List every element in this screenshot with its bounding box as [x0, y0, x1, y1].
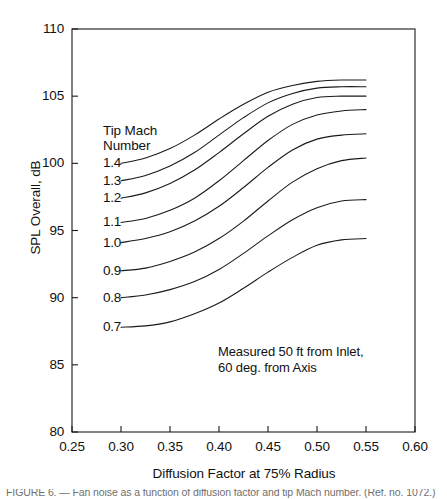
series-label-mach-0.8: 0.8: [103, 290, 137, 305]
x-tick-label: 0.35: [147, 439, 193, 454]
curve-mach-1.4: [121, 80, 366, 163]
y-tick-label: 105: [30, 88, 64, 103]
curve-mach-1.2: [121, 96, 366, 198]
series-label-mach-0.9: 0.9: [103, 263, 137, 278]
x-tick-label: 0.50: [294, 439, 340, 454]
legend-title-line-2: Number: [103, 139, 157, 154]
measurement-annotation: Measured 50 ft from Inlet, 60 deg. from …: [218, 344, 364, 375]
figure-caption: FIGURE 6. — Fan noise as a function of d…: [6, 489, 435, 498]
curve-mach-0.7: [121, 239, 366, 328]
y-tick-label: 110: [30, 21, 64, 36]
annotation-line-1: Measured 50 ft from Inlet,: [218, 344, 364, 360]
figure-caption-strip: FIGURE 6. — Fan noise as a function of d…: [0, 489, 447, 499]
y-tick-label: 85: [30, 357, 64, 372]
figure-container: 11010510095908580 0.250.300.350.400.450.…: [0, 0, 447, 499]
legend-title-line-1: Tip Mach: [103, 124, 157, 139]
y-tick-label: 80: [30, 424, 64, 439]
series-label-mach-1.3: 1.3: [103, 173, 137, 188]
series-label-mach-1.4: 1.4: [103, 155, 137, 170]
y-tick-label: 90: [30, 290, 64, 305]
chart-plot-area: [0, 0, 447, 499]
x-tick-label: 0.40: [196, 439, 242, 454]
series-label-mach-1.1: 1.1: [103, 214, 137, 229]
x-tick-label: 0.60: [392, 439, 438, 454]
curve-mach-1.1: [121, 110, 366, 223]
series-label-mach-1.2: 1.2: [103, 190, 137, 205]
y-axis-title: SPL Overall, dB: [28, 128, 43, 288]
data-curves: [121, 80, 366, 327]
x-tick-label: 0.55: [343, 439, 389, 454]
x-tick-label: 0.25: [49, 439, 95, 454]
x-tick-label: 0.45: [245, 439, 291, 454]
x-axis-title: Diffusion Factor at 75% Radius: [72, 466, 416, 481]
series-label-mach-1.0: 1.0: [103, 235, 137, 250]
legend-title: Tip Mach Number: [103, 124, 157, 153]
x-tick-label: 0.30: [98, 439, 144, 454]
annotation-line-2: 60 deg. from Axis: [218, 360, 364, 376]
series-label-mach-0.7: 0.7: [103, 319, 137, 334]
